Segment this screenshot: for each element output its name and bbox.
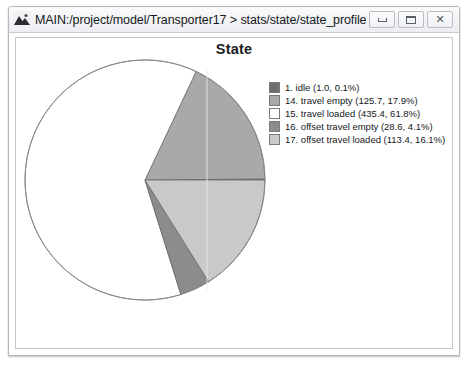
chart-title: State [16,41,452,57]
legend-label-travel-loaded: 15. travel loaded (435.4, 61.8%) [285,108,420,120]
legend-label-offset-travel-loaded: 17. offset travel loaded (113.4, 16.1%) [285,134,445,146]
legend-item[interactable]: 17. offset travel loaded (113.4, 16.1%) [269,134,453,146]
title-bar[interactable]: MAIN:/project/model/Transporter17 > stat… [9,7,459,33]
legend-label-offset-travel-empty: 16. offset travel empty (28.6, 4.1%) [285,121,433,133]
minimize-icon [378,18,387,22]
legend-swatch-offset-travel-loaded [269,134,280,145]
close-button[interactable]: ✕ [427,11,453,28]
minimize-button[interactable] [369,11,395,28]
window-controls: ✕ [366,7,453,32]
pie-chart-svg [22,56,274,308]
maximize-button[interactable] [398,11,424,28]
legend-swatch-offset-travel-empty [269,121,280,132]
window-client-area: State 1. idle (1.0, 0.1%) 14. travel emp… [9,33,459,355]
legend-item[interactable]: 16. offset travel empty (28.6, 4.1%) [269,121,453,133]
window-title: MAIN:/project/model/Transporter17 > stat… [35,13,366,27]
mountain-app-icon [13,11,31,29]
close-icon: ✕ [435,14,444,25]
legend-swatch-travel-empty [269,95,280,106]
legend-item[interactable]: 1. idle (1.0, 0.1%) [269,82,453,94]
legend-swatch-travel-loaded [269,108,280,119]
maximize-icon [406,16,416,24]
legend-label-travel-empty: 14. travel empty (125.7, 17.9%) [285,95,418,107]
graph-window: MAIN:/project/model/Transporter17 > stat… [8,6,460,356]
chart-legend: 1. idle (1.0, 0.1%) 14. travel empty (12… [269,82,453,147]
legend-swatch-idle [269,82,280,93]
legend-item[interactable]: 14. travel empty (125.7, 17.9%) [269,95,453,107]
pie-chart[interactable] [22,56,274,308]
legend-label-idle: 1. idle (1.0, 0.1%) [285,82,359,94]
chart-panel: State 1. idle (1.0, 0.1%) 14. travel emp… [15,37,453,349]
legend-item[interactable]: 15. travel loaded (435.4, 61.8%) [269,108,453,120]
